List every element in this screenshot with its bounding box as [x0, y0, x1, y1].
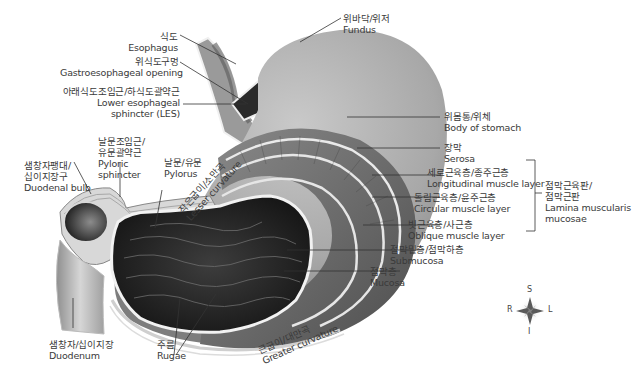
label-rugae: 주름 Rugae [157, 339, 186, 361]
compass-superior: S [527, 285, 532, 294]
label-circular-muscle: 돌림근육층/윤주근층 Circular muscle layer [414, 192, 510, 214]
label-pyloric-sphincter: 날문조임근/ 유문괄약근 Pyloric sphincter [98, 136, 145, 180]
label-les: 아래식도조임근/하식도괄약근 Lower esophageal sphincte… [40, 86, 180, 119]
label-longitudinal-muscle: 세로근육층/종주근층 Longitudinal muscle layer [427, 167, 544, 189]
label-lamina-muscularis: 점막근육판/ 점막근판 Lamina muscularis mucosae [545, 180, 631, 224]
label-oblique-muscle: 빗근육층/사근층 Oblique muscle layer [408, 219, 505, 241]
label-fundus: 위바닥/위저 Fundus [343, 13, 390, 35]
compass-right: R [507, 305, 513, 314]
compass-left: L [548, 305, 552, 314]
label-ge-opening: 위식도구멍 Gastroesophageal opening [60, 56, 179, 78]
label-serosa: 장막 Serosa [444, 142, 475, 164]
compass-rose [516, 297, 544, 325]
duodenal-bulb-shape [64, 202, 108, 242]
label-esophagus: 식도 Esophagus [120, 31, 178, 53]
label-submucosa: 점막밑층/점막하층 Submucosa [390, 244, 463, 266]
compass-inferior: I [528, 327, 530, 336]
label-duodenum: 샘창자/십이지장 Duodenum [49, 339, 114, 361]
label-body: 위몸통/위체 Body of stomach [444, 111, 521, 133]
stomach-diagram: 식도 Esophagus 위식도구멍 Gastroesophageal open… [0, 0, 641, 375]
label-mucosa: 점막층 Mucosa [370, 266, 405, 288]
stomach-lumen [112, 196, 312, 332]
label-pylorus: 날문/유문 Pylorus [164, 157, 202, 179]
label-duodenal-bulb: 샘창자팽대/ 십이지장구 Duodenal bulb [24, 160, 91, 193]
